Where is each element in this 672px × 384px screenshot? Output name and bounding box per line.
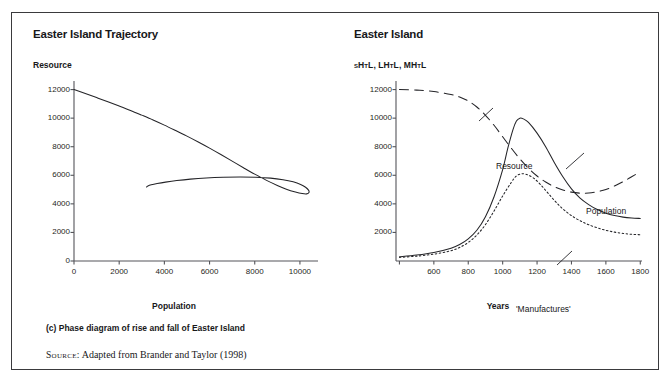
caption-c: (c) Phase diagram of rise and fall of Ea… <box>46 323 245 333</box>
series-curve <box>399 90 640 194</box>
panel-right-y-axis-label: sHtL, LHtL, MHtL <box>354 60 426 70</box>
source-note: Source: Adapted from Brander and Taylor … <box>46 349 247 360</box>
y-tick-label: 2000 <box>32 227 70 236</box>
y-tick-label: 6000 <box>32 170 70 179</box>
x-tick-label: 6000 <box>190 267 230 276</box>
panel-left-x-axis-label: Population <box>12 301 336 311</box>
y-tick-label: 12000 <box>32 85 70 94</box>
y-tick-label: 12000 <box>354 85 392 94</box>
series-curve <box>74 90 309 194</box>
phase-diagram-curves <box>74 90 309 194</box>
y-tick-label: 4000 <box>354 199 392 208</box>
curve-label-resource: Resource <box>496 161 532 171</box>
curve-label-manufactures: 'Manufactures' <box>516 304 571 314</box>
panel-left-title: Easter Island Trajectory <box>33 28 158 40</box>
time-profile-plot <box>348 73 648 293</box>
x-tick-label: 4000 <box>144 267 184 276</box>
source-text: Adapted from Brander and Taylor (1998) <box>80 349 247 360</box>
time-profile-leader-lines <box>479 108 584 265</box>
phase-diagram-plot <box>26 73 326 293</box>
y-tick-label: 10000 <box>32 113 70 122</box>
y-tick-label: 4000 <box>32 199 70 208</box>
panel-phase-diagram: Easter Island Trajectory Resource Popula… <box>12 13 336 369</box>
y-tick-label: 2000 <box>354 227 392 236</box>
leader-line <box>479 108 493 121</box>
x-tick-label: 0 <box>54 267 94 276</box>
y-tick-label: 8000 <box>354 142 392 151</box>
panel-right-x-axis-label: Years <box>336 301 660 311</box>
curve-label-population: Population <box>586 206 626 216</box>
x-tick-label: 2000 <box>99 267 139 276</box>
panel-right-title: Easter Island <box>354 28 423 40</box>
figure-frame: Easter Island Trajectory Resource Popula… <box>11 12 659 370</box>
x-tick-label: 8000 <box>235 267 275 276</box>
phase-diagram-axes <box>71 81 319 265</box>
x-tick-label: 1800 <box>620 267 660 276</box>
panel-time-profile: Easter Island sHtL, LHtL, MHtL Years (d)… <box>336 13 660 369</box>
time-profile-curves <box>399 90 640 258</box>
y-tick-label: 8000 <box>32 142 70 151</box>
panel-left-y-axis-label: Resource <box>33 60 72 70</box>
series-curve <box>399 118 640 257</box>
source-label: Source: <box>46 350 80 360</box>
y-tick-label: 10000 <box>354 113 392 122</box>
leader-line <box>566 153 584 169</box>
time-profile-axes <box>393 81 643 265</box>
leader-line <box>557 251 572 265</box>
y-tick-label: 6000 <box>354 170 392 179</box>
y-tick-label: 0 <box>32 256 70 265</box>
x-tick-label: 10000 <box>280 267 320 276</box>
